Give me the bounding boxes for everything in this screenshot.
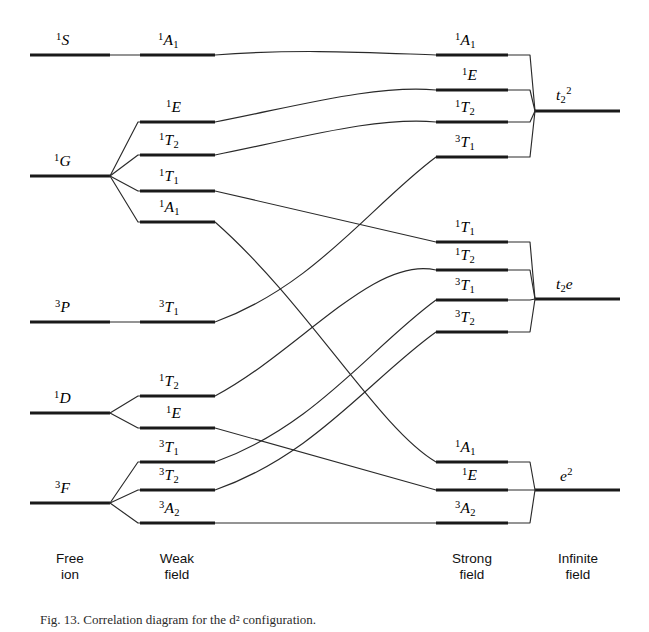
term-subscript: 1	[173, 39, 178, 50]
correlation-w-1T2b-to-s-1T2b	[215, 268, 436, 396]
strong-field-term-s-3T1: 3T1	[455, 134, 475, 153]
spin-multiplicity: 1	[462, 66, 467, 77]
spin-multiplicity: 1	[159, 372, 164, 383]
weak-field-term-w-3A2: 3A2	[159, 500, 180, 519]
infinite-field-level-group	[535, 111, 620, 490]
merge-s-3T1-t2-2	[508, 111, 535, 157]
infinite-field-term-t2-2: t22	[556, 86, 571, 105]
spin-multiplicity: 1	[56, 31, 61, 42]
split-1G-w-1A1b	[110, 176, 140, 222]
strong-field-term-s-1T1: 1T1	[455, 219, 475, 238]
term-symbol: P	[61, 298, 70, 315]
term-symbol: T	[461, 218, 470, 235]
term-subscript: 1	[174, 206, 179, 217]
term-superscript: 2	[567, 466, 572, 477]
weak-field-term-w-3T2: 3T2	[159, 467, 179, 486]
term-subscript: 1	[173, 306, 178, 317]
spin-multiplicity: 1	[455, 31, 460, 42]
term-symbol: T	[165, 438, 174, 455]
header-line-1: Infinite	[523, 551, 633, 567]
merge-s-3A2-e2	[508, 490, 535, 523]
term-symbol: A	[461, 499, 470, 516]
term-symbol: A	[164, 31, 173, 48]
spin-multiplicity: 1	[166, 98, 171, 109]
term-symbol: T	[461, 246, 470, 263]
infinite-field-term-t2e: t2e	[556, 276, 573, 294]
weak-to-strong-connectors	[215, 52, 436, 523]
strong-field-term-s-1Eb: 1E	[462, 467, 477, 483]
term-symbol: T	[165, 131, 174, 148]
merge-s-1E-t2-2	[508, 90, 535, 111]
term-subscript: 2	[174, 507, 179, 518]
term-symbol: A	[461, 31, 470, 48]
header-line-2: field	[122, 567, 232, 583]
term-symbol: e	[560, 467, 567, 484]
strong-field-term-s-1T2: 1T2	[455, 99, 475, 118]
term-symbol: t	[556, 275, 560, 292]
term-symbol: G	[60, 152, 71, 169]
term-subscript: 2	[470, 507, 475, 518]
term-symbol: S	[62, 31, 70, 48]
free-to-weak-connectors	[110, 55, 140, 523]
term-subscript: 2	[173, 139, 178, 150]
column-header-weak-field: Weakfield	[122, 551, 232, 583]
term-symbol: T	[461, 276, 470, 293]
term-subscript: 2	[469, 316, 474, 327]
term-symbol: A	[461, 438, 470, 455]
weak-field-term-w-1T2: 1T2	[159, 132, 179, 151]
weak-field-term-w-1T1: 1T1	[159, 168, 179, 187]
column-header-strong-field: Strongfield	[417, 551, 527, 583]
term-subscript: 2	[173, 380, 178, 391]
merge-s-1A1-t2-2	[508, 55, 535, 111]
term-symbol: A	[165, 499, 174, 516]
split-1D-w-1Eb	[110, 413, 140, 428]
weak-field-term-w-1Eb: 1E	[166, 405, 181, 421]
term-subscript: 2	[469, 106, 474, 117]
strong-field-term-s-1E: 1E	[462, 67, 477, 83]
term-subscript: 1	[469, 226, 474, 237]
column-header-free-ion: Freeion	[15, 551, 125, 583]
term-subscript: 2	[173, 474, 178, 485]
figure-caption: Fig. 13. Correlation diagram for the d² …	[40, 612, 610, 632]
spin-multiplicity: 1	[54, 389, 59, 400]
term-subscript: 1	[470, 446, 475, 457]
free-ion-level-group	[30, 55, 110, 503]
free-ion-term-3P: 3P	[55, 299, 70, 315]
spin-multiplicity: 3	[159, 438, 164, 449]
term-subscript: 1	[173, 446, 178, 457]
header-line-2: field	[523, 567, 633, 583]
correlation-w-1T2-to-s-1T2	[215, 121, 436, 155]
term-symbol: T	[165, 167, 174, 184]
spin-multiplicity: 1	[462, 466, 467, 477]
strong-field-term-s-1T2b: 1T2	[455, 247, 475, 266]
spin-multiplicity: 3	[159, 466, 164, 477]
correlation-w-1Eb-to-s-1Eb	[215, 428, 436, 490]
strong-field-term-s-3A2: 3A2	[455, 500, 476, 519]
term-subscript: 1	[470, 39, 475, 50]
correlation-w-3T2-to-s-3T2	[215, 332, 436, 490]
header-line-1: Weak	[122, 551, 232, 567]
spin-multiplicity: 1	[159, 131, 164, 142]
term-symbol: A	[165, 198, 174, 215]
header-line-1: Free	[15, 551, 125, 567]
spin-multiplicity: 3	[455, 308, 460, 319]
term-symbol: T	[165, 466, 174, 483]
strong-to-infinite-connectors	[508, 55, 535, 523]
strong-field-term-s-1A1b: 1A1	[455, 439, 476, 458]
term-subscript: 2	[469, 254, 474, 265]
diagram-canvas	[0, 0, 649, 632]
header-line-2: field	[417, 567, 527, 583]
split-3F-w-3A2	[110, 503, 140, 523]
term-symbol: E	[172, 404, 181, 421]
spin-multiplicity: 3	[55, 298, 60, 309]
term-symbol: D	[60, 389, 71, 406]
merge-s-3T1b-t2e	[508, 299, 535, 300]
merge-s-1T2-t2-2	[508, 111, 535, 122]
header-line-1: Strong	[417, 551, 527, 567]
spin-multiplicity: 3	[455, 276, 460, 287]
merge-s-3T2-t2e	[508, 299, 535, 332]
spin-multiplicity: 3	[159, 499, 164, 510]
spin-multiplicity: 1	[455, 438, 460, 449]
split-3F-w-3T1b	[110, 462, 140, 503]
strong-field-term-s-1A1: 1A1	[455, 32, 476, 51]
